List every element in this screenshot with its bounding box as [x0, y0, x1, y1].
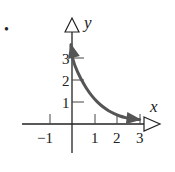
curve-line [71, 45, 140, 120]
y-axis-arrow-icon [65, 18, 79, 32]
y-tick-label: 3 [62, 51, 70, 67]
x-tick-label: 2 [113, 130, 121, 146]
x-axis-arrow-icon [144, 117, 160, 131]
y-tick-label: 1 [62, 95, 70, 111]
x-tick-label: −1 [37, 130, 53, 146]
curve-end-arrow-icon [126, 112, 142, 124]
y-tick-label: 2 [62, 73, 70, 89]
x-tick-label: 3 [136, 130, 144, 146]
y-axis-label: y [82, 13, 92, 32]
x-tick-label: 1 [91, 130, 99, 146]
x-axis-label: x [149, 97, 158, 116]
graph: −1 1 2 3 1 2 3 x y [0, 0, 175, 172]
